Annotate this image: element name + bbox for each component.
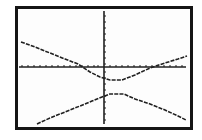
graph-canvas xyxy=(0,0,202,140)
hyperbola-lower-branch xyxy=(37,94,186,124)
axes xyxy=(19,11,186,124)
